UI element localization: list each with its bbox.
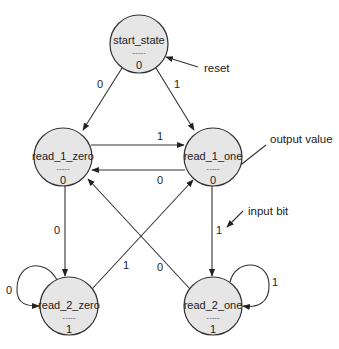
state-name: start_state [113, 34, 164, 46]
edge-label-read2one-self-loop: 1 [272, 276, 278, 288]
transitions: 0 1 1 0 0 1 1 0 0 1 [6, 68, 278, 306]
edge-label-read1one-to-read2one: 1 [216, 224, 222, 236]
state-read-1-one: read_1_one ----- 0 [184, 128, 243, 186]
state-output: 1 [210, 323, 216, 335]
edge-label-read2zero-self-loop: 0 [6, 284, 12, 296]
state-read-2-one: read_2_one ----- 1 [184, 277, 243, 335]
state-separator: ----- [62, 313, 76, 322]
state-name: read_1_one [184, 150, 243, 162]
state-output: 0 [210, 174, 216, 186]
state-read-1-zero: read_1_zero ----- 0 [32, 128, 94, 186]
edge-label-start-to-read1one: 1 [174, 78, 180, 90]
diagram-canvas: 0 1 1 0 0 1 1 0 0 1 reset output value i… [0, 0, 339, 349]
edge-label-read1zero-to-read1one: 1 [157, 130, 163, 142]
edge-read2one-to-read1zero [88, 179, 190, 289]
state-separator: ----- [56, 164, 70, 173]
state-separator: ----- [206, 164, 220, 173]
state-output: 1 [66, 323, 72, 335]
state-output: 0 [60, 174, 66, 186]
edge-label-read2one-to-read1zero: 0 [157, 261, 163, 273]
output-value-annotation: output value [270, 133, 333, 145]
edge-read2zero-to-read1one [92, 180, 193, 289]
edge-label-read1zero-to-read2zero: 0 [54, 224, 60, 236]
state-separator: ----- [132, 48, 146, 57]
state-read-2-zero: read_2_zero ----- 1 [38, 277, 100, 335]
input-bit-annotation: input bit [248, 205, 289, 217]
state-name: read_2_zero [38, 299, 100, 311]
edge-label-start-to-read1zero: 0 [97, 78, 103, 90]
edge-label-read2zero-to-read1one: 1 [123, 259, 129, 271]
state-start-state: start_state ----- 0 [110, 15, 168, 73]
reset-pointer-arrow [166, 57, 198, 67]
edge-label-read1one-to-read1zero: 0 [157, 174, 163, 186]
state-separator: ----- [206, 313, 220, 322]
reset-annotation: reset [204, 62, 230, 74]
state-diagram: 0 1 1 0 0 1 1 0 0 1 reset output value i… [0, 0, 339, 349]
input-bit-pointer-arrow [227, 211, 243, 227]
state-name: read_1_zero [32, 150, 94, 162]
state-output: 0 [136, 59, 142, 71]
state-name: read_2_one [184, 299, 243, 311]
